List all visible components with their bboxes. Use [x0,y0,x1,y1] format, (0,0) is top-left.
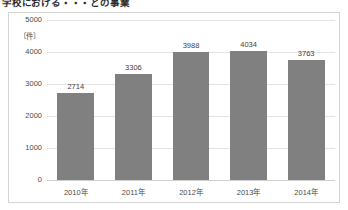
bar-slot-2011: 3306 [105,20,163,180]
bar-value-2010: 2714 [47,83,105,91]
bar-slot-2010: 2714 [47,20,105,180]
x-tick-label-2010: 2010年 [47,186,105,197]
chart-frame: 〔件〕 5000 4000 3000 2000 1000 0 2714 3 [8,12,340,203]
x-tick-label-2014: 2014年 [277,186,335,197]
bar-slot-2013: 4034 [220,20,278,180]
x-axis-labels: 2010年 2011年 2012年 2013年 2014年 [47,186,335,197]
y-axis-unit-label: 〔件〕 [19,33,40,41]
axis-baseline-0: 0 [47,180,335,181]
y-tick-label-0: 0 [38,176,42,184]
plot-area: 5000 4000 3000 2000 1000 0 2714 3306 [47,20,335,180]
x-tick-label-2012: 2012年 [162,186,220,197]
x-tick-label-2013: 2013年 [220,186,278,197]
bar-2012[interactable] [173,52,210,180]
bar-series: 2714 3306 3988 4034 3763 [47,20,335,180]
bar-value-2011: 3306 [105,64,163,72]
y-tick-label-3000: 3000 [25,80,42,88]
y-tick-label-2000: 2000 [25,112,42,120]
bar-slot-2014: 3763 [277,20,335,180]
bar-2013[interactable] [230,51,267,180]
page-title: 学校における・・・との事業 [2,0,129,9]
bar-value-2013: 4034 [220,41,278,49]
bar-2014[interactable] [288,60,325,180]
bar-2010[interactable] [57,93,94,180]
y-tick-label-5000: 5000 [25,16,42,24]
bar-value-2012: 3988 [162,42,220,50]
bar-2011[interactable] [115,74,152,180]
x-tick-label-2011: 2011年 [105,186,163,197]
y-tick-label-4000: 4000 [25,48,42,56]
y-tick-label-1000: 1000 [25,144,42,152]
bar-value-2014: 3763 [277,50,335,58]
bar-slot-2012: 3988 [162,20,220,180]
